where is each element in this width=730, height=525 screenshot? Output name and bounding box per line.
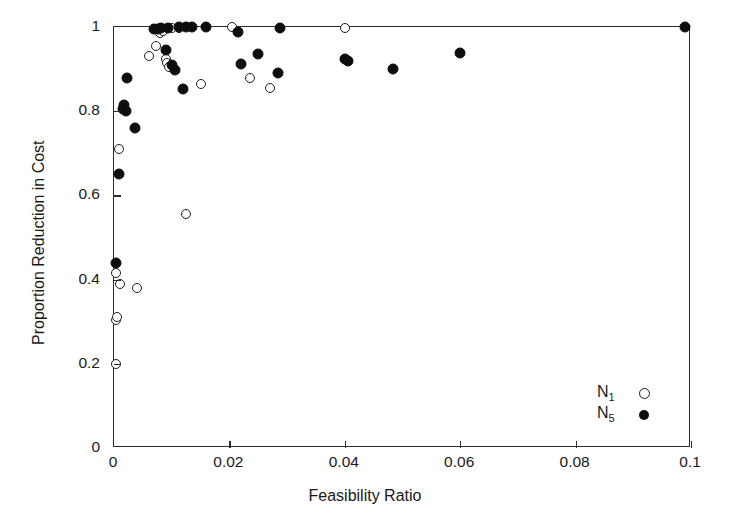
data-point-N1	[112, 312, 122, 322]
data-point-N5	[275, 22, 286, 33]
data-point-N1	[340, 23, 350, 33]
data-point-N1	[111, 268, 121, 278]
legend: N1N5	[597, 384, 657, 424]
x-axis-tick-label: 0	[109, 453, 118, 471]
data-point-N1	[144, 51, 154, 61]
data-point-N5	[129, 123, 140, 134]
data-point-N5	[235, 59, 246, 70]
data-point-N5	[455, 48, 466, 59]
x-axis-tick	[229, 441, 230, 448]
data-point-N1	[196, 79, 206, 89]
legend-label: N5	[597, 404, 631, 424]
x-axis-tick	[576, 441, 577, 448]
x-axis-tick	[345, 441, 346, 448]
y-axis-tick-label: 0.6	[38, 185, 100, 203]
data-point-N5	[387, 64, 398, 75]
data-point-N5	[233, 27, 244, 38]
x-axis-tick-label: 0.1	[679, 453, 701, 471]
x-axis-tick-label: 0.02	[213, 453, 243, 471]
x-axis-tick-label: 0.04	[329, 453, 359, 471]
data-point-N5	[273, 68, 284, 79]
data-point-N5	[186, 22, 197, 33]
legend-item-N1[interactable]: N1	[597, 384, 657, 403]
plot-area: N1N5	[113, 26, 690, 447]
data-point-N5	[178, 84, 189, 95]
y-axis-tick	[114, 111, 121, 112]
x-axis-tick	[460, 441, 461, 448]
data-point-N1	[265, 83, 275, 93]
data-point-N1	[114, 144, 124, 154]
data-point-N5	[121, 73, 132, 84]
y-axis-tick	[114, 280, 121, 281]
data-point-N5	[169, 64, 180, 75]
y-axis-tick-label: 0	[38, 438, 100, 456]
legend-label: N1	[597, 383, 631, 403]
data-point-N1	[151, 41, 161, 51]
scatter-plot-figure: Proportion Reduction in Cost Feasibility…	[0, 0, 730, 525]
legend-item-N5[interactable]: N5	[597, 405, 657, 424]
data-point-N5	[680, 22, 691, 33]
data-point-N1	[132, 283, 142, 293]
legend-marker-filled-circle-icon	[631, 410, 657, 420]
data-point-N5	[253, 49, 264, 60]
x-axis-tick	[691, 441, 692, 448]
data-point-N5	[111, 257, 122, 268]
legend-marker-open-circle-icon	[631, 388, 657, 399]
data-point-N1	[245, 73, 255, 83]
data-point-N5	[113, 169, 124, 180]
x-axis-tick-label: 0.06	[444, 453, 474, 471]
data-point-N5	[120, 106, 131, 117]
data-point-N5	[201, 22, 212, 33]
y-axis-tick-label: 1	[38, 17, 100, 35]
data-point-N5	[342, 55, 353, 66]
data-point-N1	[181, 209, 191, 219]
y-axis-tick-label: 0.4	[38, 270, 100, 288]
y-axis-tick	[114, 195, 121, 196]
x-axis-label: Feasibility Ratio	[0, 487, 730, 505]
data-point-N5	[160, 45, 171, 56]
y-axis-tick	[114, 364, 121, 365]
y-axis-tick-label: 0.8	[38, 101, 100, 119]
y-axis-tick-label: 0.2	[38, 354, 100, 372]
data-point-N5	[163, 23, 174, 34]
y-axis-label: Proportion Reduction in Cost	[30, 140, 48, 345]
x-axis-tick-label: 0.08	[560, 453, 590, 471]
